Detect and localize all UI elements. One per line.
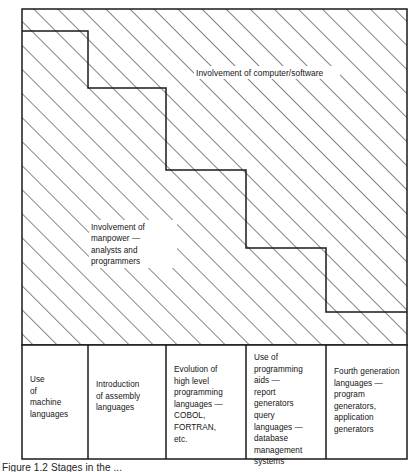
column-cell-fourth-generation: Fourth generation languages — program ge…	[334, 366, 408, 436]
figure-container: Involvement of computer/software Involve…	[0, 0, 420, 472]
column-cell-high-level-languages: Evolution of high level programming lang…	[174, 364, 242, 445]
column-cell-programming-aids: Use of programming aids — report generat…	[254, 352, 322, 468]
column-cell-assembly-languages: Introduction of assembly languages	[96, 379, 160, 414]
computer-involvement-label: Involvement of computer/software	[196, 68, 323, 79]
manpower-involvement-label: Involvement of manpower — analysts and p…	[91, 222, 145, 268]
figure-caption: Figure 1.2 Stages in the ...	[2, 461, 420, 472]
column-cell-machine-languages: Use of machine languages	[30, 374, 82, 420]
